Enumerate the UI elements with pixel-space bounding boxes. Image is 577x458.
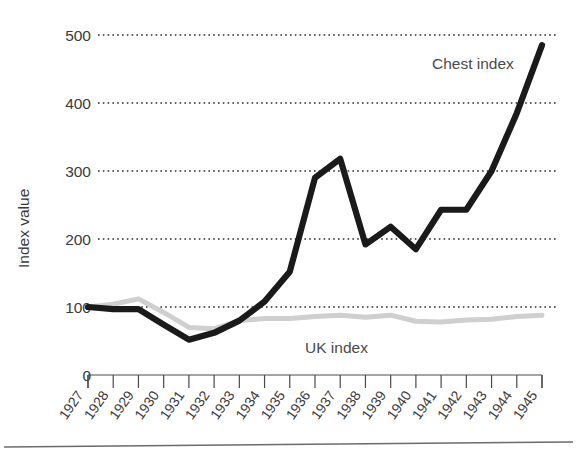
- x-tick-label-1933: 1933: [207, 387, 238, 422]
- x-tick-label-1927: 1927: [55, 387, 86, 422]
- x-tick-label-1940: 1940: [383, 387, 414, 422]
- x-tick-label-1942: 1942: [434, 387, 465, 422]
- x-tick-label-1939: 1939: [358, 387, 389, 422]
- uk-index-series-label: UK index: [305, 339, 368, 356]
- series-lines-group: [88, 45, 542, 339]
- x-axis-group: [88, 375, 542, 388]
- x-tick-label-1929: 1929: [106, 387, 137, 422]
- x-tick-label-1936: 1936: [282, 387, 313, 422]
- series-line-uk-index: [88, 299, 542, 329]
- y-tick-label-500: 500: [65, 27, 91, 44]
- x-tick-label-1938: 1938: [333, 387, 364, 422]
- x-tick-label-1945: 1945: [509, 387, 540, 422]
- x-tick-label-1932: 1932: [182, 387, 213, 422]
- x-tick-label-1928: 1928: [81, 387, 112, 422]
- y-axis-title: Index value: [15, 189, 32, 268]
- y-tick-label-300: 300: [65, 163, 91, 180]
- x-tick-label-1937: 1937: [308, 387, 339, 422]
- chart-figure: 0100200300400500 19271928192919301931193…: [0, 0, 577, 458]
- x-tick-label-1934: 1934: [232, 387, 263, 422]
- x-tick-label-1941: 1941: [409, 387, 440, 422]
- x-tick-label-1944: 1944: [484, 387, 515, 422]
- y-axis-tick-labels: 0100200300400500: [65, 27, 91, 384]
- bottom-rule: [4, 442, 573, 447]
- x-tick-label-1943: 1943: [459, 387, 490, 422]
- y-tick-label-400: 400: [65, 95, 91, 112]
- x-tick-label-1935: 1935: [257, 387, 288, 422]
- chest-index-series-label: Chest index: [432, 55, 514, 72]
- x-tick-label-1931: 1931: [156, 387, 187, 422]
- line-chart: 0100200300400500 19271928192919301931193…: [0, 0, 577, 458]
- y-tick-label-200: 200: [65, 231, 91, 248]
- x-axis-tick-labels: 1927192819291930193119321933193419351936…: [55, 387, 540, 422]
- x-tick-label-1930: 1930: [131, 387, 162, 422]
- series-line-chest-index: [88, 45, 542, 339]
